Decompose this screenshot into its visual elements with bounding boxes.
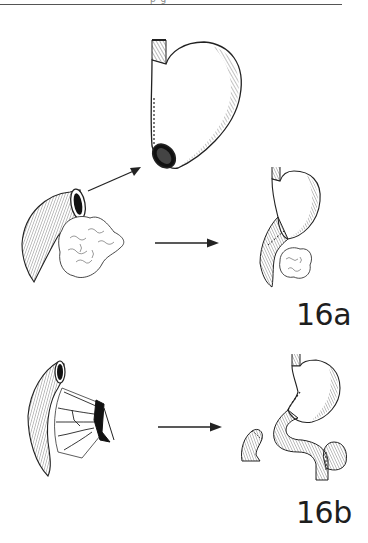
stomach-duodenum-result-illustration <box>258 165 338 290</box>
jejunal-loop-mesentery-illustration <box>24 360 104 480</box>
figure-label-16b: 16b <box>296 498 352 528</box>
stomach-resected-illustration <box>140 38 250 178</box>
header-rule <box>0 4 342 5</box>
jejunal-stump-illustration <box>238 425 268 465</box>
horizontal-arrow-a-icon <box>153 237 221 249</box>
horizontal-arrow-b-icon <box>156 421 224 433</box>
duodenum-pancreas-illustration <box>18 184 128 284</box>
stomach-jejunum-reconstruction-illustration <box>268 352 350 482</box>
figure-label-16a: 16a <box>296 300 351 330</box>
